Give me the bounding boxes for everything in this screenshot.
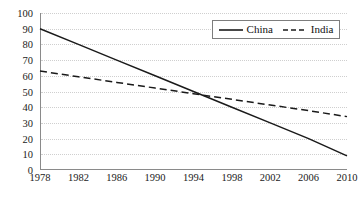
x-tick-label: 1982 <box>68 173 89 184</box>
x-tick-label: 1990 <box>145 173 166 184</box>
x-tick-label: 1978 <box>30 173 51 184</box>
dashed-line-icon <box>283 25 307 35</box>
x-tick-label: 2006 <box>298 173 319 184</box>
x-tick-label: 2010 <box>337 173 358 184</box>
x-tick-label: 1994 <box>183 173 204 184</box>
legend-entry-china: China <box>219 24 273 35</box>
x-axis-labels: 1978 1982 1986 1990 1994 1998 2002 2006 … <box>0 173 358 195</box>
legend-label-india: India <box>311 24 334 35</box>
x-tick-label: 1986 <box>106 173 127 184</box>
legend: China India <box>212 20 340 39</box>
line-chart: 100 90 80 70 60 50 40 30 20 10 0 <box>0 0 358 198</box>
x-tick-label: 1998 <box>221 173 242 184</box>
series-line-china <box>40 29 347 156</box>
solid-line-icon <box>219 25 243 35</box>
legend-label-china: China <box>247 24 273 35</box>
legend-entry-india: India <box>283 24 334 35</box>
x-tick-label: 2002 <box>260 173 281 184</box>
series-line-india <box>40 71 347 117</box>
